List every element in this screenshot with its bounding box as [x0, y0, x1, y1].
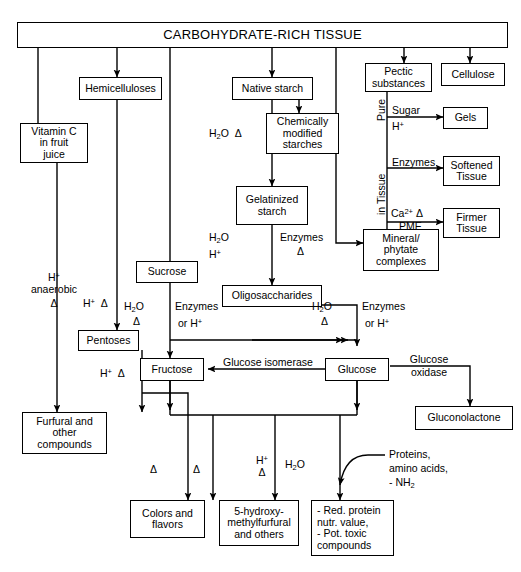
edge-label-gelatinized-h2o: H2O — [209, 232, 229, 247]
edge-label-pme: PME — [399, 221, 422, 233]
node-hemicelluloses: Hemicelluloses — [79, 77, 162, 100]
edge-label-sugar-acid: H+ — [392, 119, 404, 133]
node-chemically-modified-starches: Chemically modified starches — [266, 113, 339, 154]
edge-label-gelatinized-acid: H+ — [209, 247, 221, 261]
node-protein-effects: - Red. protein nutr. value, - Pot. toxic… — [311, 500, 394, 556]
edge-label-sucrose-or-acid: or H+ — [178, 316, 202, 330]
edge-label-enzymes-pectic: Enzymes — [392, 157, 435, 169]
edge-label-hmf-h2o: H2O — [285, 459, 305, 474]
edge-label-proteins: Proteins,amino acids,- NH2 — [389, 447, 448, 493]
edge-label-gelatinized-delta: Δ — [297, 246, 304, 258]
node-gluconolactone: Gluconolactone — [415, 406, 513, 430]
edge-label-ca-pme: Ca2+ Δ — [391, 206, 423, 220]
node-firmer-tissue: Firmer Tissue — [443, 208, 500, 238]
edge-label-sucrose-enzymes: Enzymes — [175, 301, 218, 313]
edge-label-vitc-anaerobic: anaerobic — [14, 284, 94, 296]
edge-label-glucose-oxidase: Glucose oxidase — [394, 353, 464, 379]
node-native-starch: Native starch — [232, 77, 313, 100]
edge-label-hmf-acid: H+ — [248, 453, 276, 467]
edge-label-gelatinized-enzymes: Enzymes — [280, 232, 323, 244]
edge-label-starch-hydrolysis: H2O Δ — [209, 128, 242, 143]
edge-label-vitc-delta: Δ — [22, 298, 86, 310]
node-hmf: 5-hydroxy- methylfurfural and others — [219, 500, 299, 546]
node-glucose: Glucose — [325, 358, 389, 381]
edge-label-glucose-isomerase: Glucose isomerase — [223, 357, 313, 369]
node-vitamin-c: Vitamin C in fruit juice — [20, 123, 88, 163]
edge-label-vitc-acid: H+ — [22, 270, 86, 284]
node-furfural: Furfural and other compounds — [22, 412, 107, 454]
node-cellulose: Cellulose — [441, 63, 505, 86]
diagram-canvas: CARBOHYDRATE-RICH TISSUE Hemicelluloses … — [0, 0, 521, 572]
node-pentoses: Pentoses — [78, 330, 139, 351]
edge-label-hmf-delta: Δ — [248, 467, 276, 479]
node-gelatinized-starch: Gelatinized starch — [236, 186, 308, 225]
node-pectic-substances: Pectic substances — [365, 63, 432, 92]
edge-label-pentose-acid-delta: H+ Δ — [100, 366, 125, 380]
node-colors-flavors: Colors and flavors — [130, 500, 205, 538]
edge-label-colors-delta-left: Δ — [150, 464, 157, 476]
node-softened-tissue: Softened Tissue — [443, 156, 500, 186]
edge-label-pure: Pure — [376, 99, 388, 121]
edge-label-oligo-delta: Δ — [321, 316, 328, 328]
node-oligosaccharides: Oligosaccharides — [222, 285, 322, 307]
node-fructose: Fructose — [140, 358, 204, 381]
edge-label-sugar: Sugar — [392, 105, 420, 117]
node-gels: Gels — [443, 107, 488, 129]
edge-label-hemi-acid-delta: H+ Δ — [83, 296, 108, 310]
node-mineral-phytate-complexes: Mineral/ phytate complexes — [363, 229, 439, 271]
edge-label-oligo-enzymes: Enzymes — [362, 301, 405, 313]
edge-label-sucrose-delta: Δ — [133, 316, 140, 328]
node-root: CARBOHYDRATE-RICH TISSUE — [17, 22, 508, 48]
edge-label-oligo-h2o: H2O — [312, 301, 332, 316]
edge-label-oligo-or-acid: or H+ — [365, 316, 389, 330]
edge-label-colors-delta-right: Δ — [193, 464, 200, 476]
edge-label-in-tissue: in Tissue — [376, 174, 388, 215]
node-sucrose: Sucrose — [136, 261, 198, 283]
edge-label-sucrose-h2o: H2O — [124, 301, 144, 316]
